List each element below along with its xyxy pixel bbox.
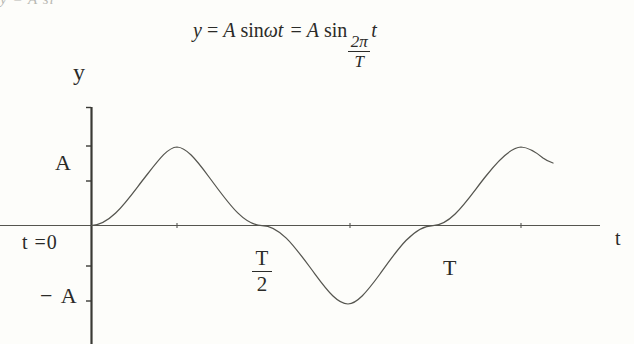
y-axis-label: y [73,60,85,84]
x-axis-label: t [615,228,621,248]
half-period-label: T 2 [252,248,272,295]
half-period-numerator: T [253,248,272,271]
period-label: T [443,257,456,279]
sine-wave-plot [0,0,634,344]
half-period-denominator: 2 [254,272,271,295]
origin-label: t =0 [22,232,58,252]
figure-canvas: y = A si y=Asinωt=Asin2πTt y A − A t =0 [0,0,634,344]
amplitude-negative-label: − A [40,285,79,307]
amplitude-positive-label: A [55,152,71,174]
y-axis-ticks [86,108,91,302]
